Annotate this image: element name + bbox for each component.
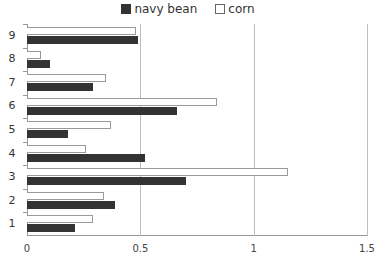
legend-label-navy-bean: navy bean (134, 2, 197, 16)
bar-corn-1 (27, 215, 93, 223)
x-tick-label: 0.5 (132, 243, 148, 254)
y-category-label: 6 (6, 99, 18, 112)
bar-navy-bean-2 (27, 201, 115, 209)
bar-navy-bean-7 (27, 83, 93, 91)
plot-area (27, 24, 367, 236)
y-tick (23, 71, 27, 72)
bar-corn-7 (27, 74, 106, 82)
gridline (254, 24, 255, 236)
bar-navy-bean-4 (27, 154, 145, 162)
y-category-label: 5 (6, 123, 18, 136)
bar-corn-8 (27, 51, 41, 59)
corn-swatch-icon (215, 4, 225, 14)
y-tick (23, 165, 27, 166)
y-tick (23, 212, 27, 213)
navy-bean-swatch-icon (121, 4, 131, 14)
y-category-label: 8 (6, 52, 18, 65)
bar-navy-bean-6 (27, 107, 177, 115)
bar-corn-2 (27, 192, 104, 200)
y-tick (23, 118, 27, 119)
bar-corn-4 (27, 145, 86, 153)
bar-navy-bean-5 (27, 130, 68, 138)
bar-navy-bean-9 (27, 36, 138, 44)
y-tick (23, 48, 27, 49)
x-tick-label: 1 (250, 243, 256, 254)
x-axis (27, 235, 367, 236)
bar-corn-6 (27, 98, 217, 106)
y-tick (23, 95, 27, 96)
x-tick-label: 0 (24, 243, 30, 254)
y-category-label: 3 (6, 170, 18, 183)
bar-corn-9 (27, 27, 136, 35)
legend-label-corn: corn (228, 2, 254, 16)
y-category-label: 1 (6, 217, 18, 230)
legend-item-corn: corn (215, 2, 254, 16)
bar-corn-5 (27, 121, 111, 129)
chart-legend: navy bean corn (0, 2, 376, 16)
bar-navy-bean-3 (27, 177, 186, 185)
bar-navy-bean-8 (27, 60, 50, 68)
y-category-label: 2 (6, 194, 18, 207)
gridline (140, 24, 141, 236)
gridline (367, 24, 368, 236)
bar-corn-3 (27, 168, 288, 176)
y-tick (23, 189, 27, 190)
y-category-label: 4 (6, 147, 18, 160)
y-category-label: 7 (6, 76, 18, 89)
y-tick (23, 24, 27, 25)
y-tick (23, 142, 27, 143)
bar-navy-bean-1 (27, 224, 75, 232)
legend-item-navy-bean: navy bean (121, 2, 197, 16)
x-tick-label: 1.5 (359, 243, 375, 254)
y-category-label: 9 (6, 29, 18, 42)
